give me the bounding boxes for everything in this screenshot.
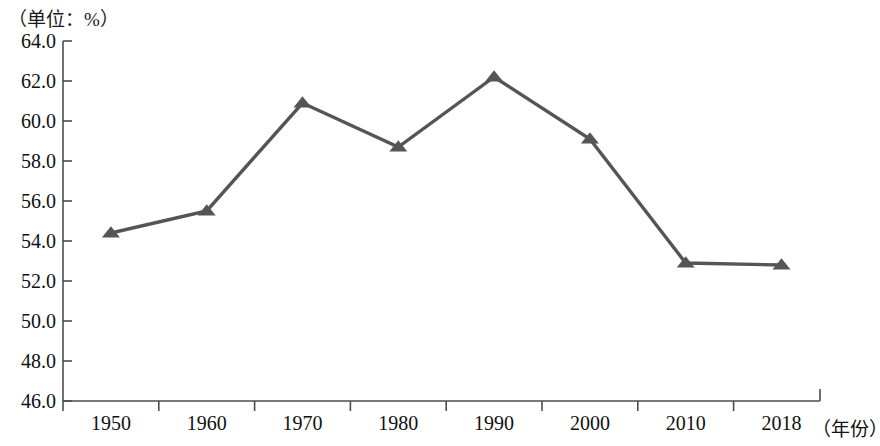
data-point-marker (294, 96, 312, 107)
x-axis-tick-label: 2010 (666, 412, 706, 435)
x-axis-title: （年份） (812, 414, 880, 441)
x-axis-tick-label: 1950 (91, 412, 131, 435)
x-axis-tick-label: 1980 (378, 412, 418, 435)
x-axis-tick-label: 2000 (570, 412, 610, 435)
data-line-series (111, 77, 782, 265)
x-axis-tick-label: 1960 (187, 412, 227, 435)
x-axis-tick-label: 2018 (762, 412, 802, 435)
x-axis-tick-label: 1970 (283, 412, 323, 435)
data-point-marker (485, 70, 503, 81)
x-axis-tick-label: 1990 (474, 412, 514, 435)
